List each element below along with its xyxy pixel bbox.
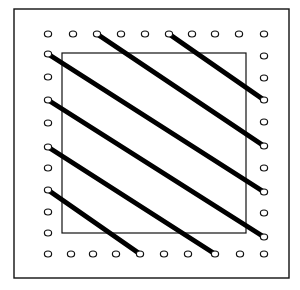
peg-hole-icon	[44, 209, 51, 215]
peg-hole-icon	[44, 74, 51, 80]
peg-hole-icon	[89, 251, 96, 257]
peg-hole-icon	[44, 165, 51, 171]
peg-hole-icon	[184, 251, 191, 257]
peg-hole-icon	[44, 187, 51, 193]
peg-hole-icon	[44, 144, 51, 150]
string-board-diagram	[0, 0, 300, 290]
peg-hole-icon	[235, 31, 242, 37]
peg-hole-icon	[260, 189, 267, 195]
peg-hole-icon	[44, 97, 51, 103]
peg-hole-icon	[236, 251, 243, 257]
peg-hole-icon	[260, 165, 267, 171]
peg-hole-icon	[93, 31, 100, 37]
peg-hole-icon	[44, 31, 51, 37]
peg-hole-icon	[260, 53, 267, 59]
outer-frame	[14, 9, 289, 278]
string-5	[48, 147, 215, 254]
peg-hole-icon	[44, 51, 51, 57]
string-2	[97, 34, 264, 146]
peg-hole-icon	[260, 119, 267, 125]
peg-hole-icon	[117, 31, 124, 37]
peg-holes	[44, 31, 267, 257]
peg-hole-icon	[141, 31, 148, 37]
peg-hole-icon	[260, 97, 267, 103]
peg-hole-icon	[136, 251, 143, 257]
peg-hole-icon	[44, 120, 51, 126]
peg-hole-icon	[160, 251, 167, 257]
peg-hole-icon	[260, 234, 267, 240]
peg-hole-icon	[44, 230, 51, 236]
peg-hole-icon	[69, 31, 76, 37]
peg-hole-icon	[260, 143, 267, 149]
peg-hole-icon	[188, 31, 195, 37]
peg-hole-icon	[67, 251, 74, 257]
strings	[48, 34, 264, 254]
peg-hole-icon	[260, 251, 267, 257]
peg-hole-icon	[165, 31, 172, 37]
peg-hole-icon	[211, 251, 218, 257]
peg-hole-icon	[260, 210, 267, 216]
peg-hole-icon	[260, 75, 267, 81]
peg-hole-icon	[260, 31, 267, 37]
peg-hole-icon	[112, 251, 119, 257]
peg-hole-icon	[211, 31, 218, 37]
peg-hole-icon	[44, 251, 51, 257]
